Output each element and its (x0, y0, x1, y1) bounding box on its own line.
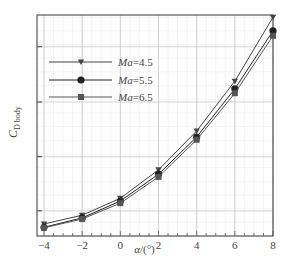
legend-label: Ma=6.5 (117, 91, 153, 103)
line-chart: −4−202468Ma=4.5Ma=5.5Ma=6.5 (0, 0, 289, 279)
square-marker (117, 200, 123, 206)
y-axis-label: CD body (6, 108, 36, 138)
square-marker (232, 90, 238, 96)
legend-label: Ma=5.5 (117, 74, 153, 86)
square-marker (270, 33, 276, 39)
square-marker (194, 137, 200, 143)
x-axis-label: α/(°) (0, 243, 289, 255)
circle-marker (77, 76, 84, 83)
square-marker (79, 216, 85, 222)
square-marker (156, 174, 162, 180)
legend-label: Ma=4.5 (117, 56, 153, 68)
square-marker (78, 94, 84, 100)
square-marker (41, 225, 47, 231)
plot-area: −4−202468 (37, 15, 276, 251)
